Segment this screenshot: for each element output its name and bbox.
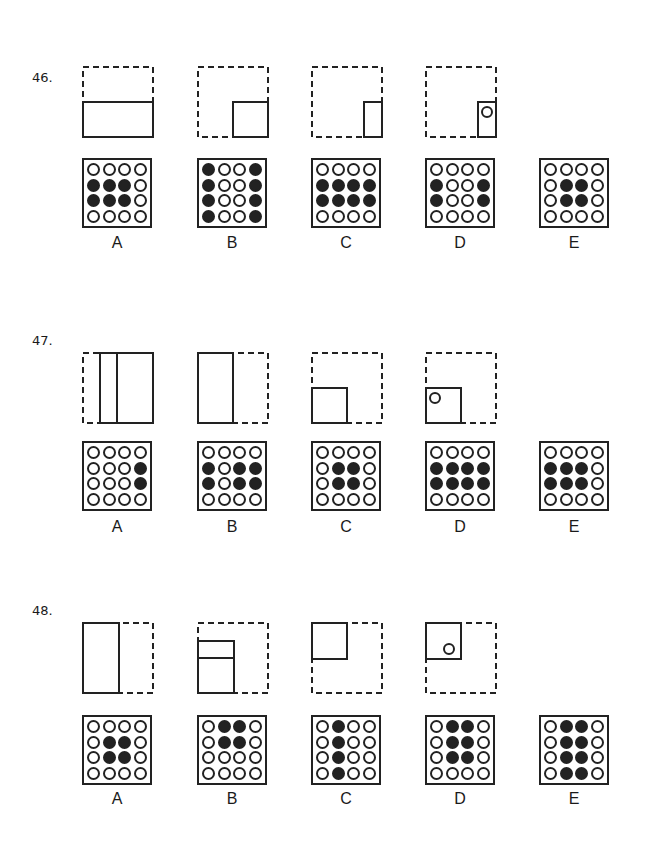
empty-circle-icon [544, 493, 557, 506]
answer-grid-e[interactable] [539, 158, 609, 228]
empty-circle-icon [544, 179, 557, 192]
empty-circle-icon [218, 767, 231, 780]
option-label: D [424, 790, 496, 808]
empty-circle-icon [134, 751, 147, 764]
answer-grid-b[interactable] [197, 441, 267, 511]
punched-hole-icon [560, 194, 573, 207]
option-label: E [538, 518, 610, 536]
empty-circle-icon [430, 210, 443, 223]
empty-circle-icon [332, 446, 345, 459]
answer-grid-e[interactable] [539, 441, 609, 511]
fold-step-4-punch [425, 66, 497, 138]
empty-circle-icon [544, 446, 557, 459]
empty-circle-icon [461, 163, 474, 176]
punched-hole-icon [202, 477, 215, 490]
empty-circle-icon [591, 736, 604, 749]
punched-hole-icon [446, 462, 459, 475]
punched-hole-icon [218, 720, 231, 733]
answer-grid-a[interactable] [82, 715, 152, 785]
punched-hole-icon [249, 210, 262, 223]
question-number: 47. [32, 333, 53, 348]
punched-hole-icon [461, 477, 474, 490]
empty-circle-icon [477, 720, 490, 733]
empty-circle-icon [591, 720, 604, 733]
empty-circle-icon [363, 751, 376, 764]
punched-hole-icon [560, 477, 573, 490]
empty-circle-icon [218, 163, 231, 176]
fold-step-4-punch [425, 352, 497, 424]
empty-circle-icon [218, 477, 231, 490]
empty-circle-icon [316, 736, 329, 749]
punched-hole-icon [249, 163, 262, 176]
punched-hole-icon [560, 751, 573, 764]
empty-circle-icon [118, 462, 131, 475]
answer-grid-a[interactable] [82, 158, 152, 228]
punched-hole-icon [332, 179, 345, 192]
empty-circle-icon [544, 751, 557, 764]
empty-circle-icon [233, 493, 246, 506]
empty-circle-icon [118, 477, 131, 490]
empty-circle-icon [591, 462, 604, 475]
punched-hole-icon [332, 751, 345, 764]
empty-circle-icon [316, 767, 329, 780]
empty-circle-icon [134, 720, 147, 733]
empty-circle-icon [544, 767, 557, 780]
fold-step-2 [197, 352, 269, 424]
punched-hole-icon [560, 720, 573, 733]
empty-circle-icon [347, 493, 360, 506]
answer-grid-d[interactable] [425, 715, 495, 785]
empty-circle-icon [477, 767, 490, 780]
empty-circle-icon [118, 720, 131, 733]
empty-circle-icon [134, 767, 147, 780]
option-label: C [310, 234, 382, 252]
option-label: D [424, 234, 496, 252]
empty-circle-icon [575, 163, 588, 176]
punched-hole-icon [430, 179, 443, 192]
answer-grid-d[interactable] [425, 441, 495, 511]
empty-circle-icon [103, 446, 116, 459]
punched-hole-icon [249, 477, 262, 490]
punched-hole-icon [575, 767, 588, 780]
empty-circle-icon [233, 194, 246, 207]
fold-step-1 [82, 66, 154, 138]
punched-hole-icon [103, 736, 116, 749]
answer-grid-b[interactable] [197, 715, 267, 785]
empty-circle-icon [591, 767, 604, 780]
empty-circle-icon [249, 736, 262, 749]
answer-grid-c[interactable] [311, 158, 381, 228]
empty-circle-icon [332, 493, 345, 506]
answer-grid-a[interactable] [82, 441, 152, 511]
punched-hole-icon [560, 767, 573, 780]
answer-grid-c[interactable] [311, 441, 381, 511]
answer-grid-b[interactable] [197, 158, 267, 228]
empty-circle-icon [87, 493, 100, 506]
empty-circle-icon [202, 751, 215, 764]
fold-step-1 [82, 352, 154, 424]
fold-step-3 [311, 352, 383, 424]
empty-circle-icon [591, 751, 604, 764]
empty-circle-icon [347, 720, 360, 733]
option-label: E [538, 790, 610, 808]
empty-circle-icon [316, 446, 329, 459]
fold-step-1 [82, 622, 154, 694]
empty-circle-icon [347, 210, 360, 223]
punched-hole-icon [363, 179, 376, 192]
empty-circle-icon [477, 493, 490, 506]
punched-hole-icon [233, 477, 246, 490]
answer-grid-d[interactable] [425, 158, 495, 228]
empty-circle-icon [202, 767, 215, 780]
empty-circle-icon [363, 446, 376, 459]
answer-grid-e[interactable] [539, 715, 609, 785]
option-label: E [538, 234, 610, 252]
empty-circle-icon [202, 446, 215, 459]
option-label: D [424, 518, 496, 536]
empty-circle-icon [202, 720, 215, 733]
empty-circle-icon [446, 194, 459, 207]
empty-circle-icon [477, 446, 490, 459]
empty-circle-icon [218, 210, 231, 223]
empty-circle-icon [249, 446, 262, 459]
answer-grid-c[interactable] [311, 715, 381, 785]
punched-hole-icon [446, 736, 459, 749]
punched-hole-icon [575, 477, 588, 490]
punched-hole-icon [118, 751, 131, 764]
